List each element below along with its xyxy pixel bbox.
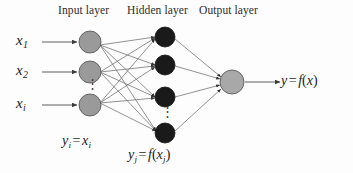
hidden-node-4[interactable]	[155, 123, 175, 143]
layer-title-hidden: Hidden layer	[127, 4, 188, 16]
input-label-x1: x1	[16, 32, 28, 50]
input-layer-nodes	[79, 31, 101, 116]
edge-in3-hid3	[100, 98, 155, 103]
edge-in1-hid4	[100, 45, 156, 131]
edge-hid3-out	[175, 85, 220, 97]
input-label-x2-base: x	[16, 62, 23, 78]
edge-hid2-out	[175, 66, 220, 79]
input-eq-operator: =	[71, 133, 82, 148]
hidden-eq-paren-close: )	[166, 147, 171, 162]
neural-network-figure: Input layer Hidden layer Output layer x1…	[0, 0, 353, 173]
output-node-1[interactable]	[220, 70, 244, 94]
layer-title-output: Output layer	[199, 4, 258, 16]
input-layer-ellipsis-icon: ⋮	[86, 82, 94, 85]
edge-hid1-out	[175, 39, 221, 77]
input-node-3[interactable]	[79, 94, 101, 116]
hidden-eq-arg-base: x	[157, 147, 163, 162]
input-label-xi-base: x	[16, 95, 23, 111]
input-arrows	[42, 42, 77, 105]
layer-title-input: Input layer	[58, 4, 109, 16]
edge-in3-hid4	[100, 103, 156, 131]
edges-input-to-hidden	[100, 37, 156, 131]
input-label-xi: xi	[16, 95, 26, 113]
hidden-layer-equation: yj=f(xj)	[128, 147, 170, 164]
input-label-x1-sub: 1	[23, 39, 28, 50]
hidden-node-2[interactable]	[155, 55, 175, 75]
output-eq-operator: =	[287, 73, 298, 88]
hidden-layer-ellipsis-icon: ⋮	[161, 110, 169, 113]
hidden-ellipsis-glyph: ⋮	[161, 110, 169, 113]
hidden-layer-nodes	[155, 27, 175, 143]
input-label-x2-sub: 2	[23, 69, 28, 80]
edge-in2-hid4	[100, 72, 156, 131]
edges-hidden-to-output	[175, 39, 221, 131]
input-eq-rhs-sub: i	[88, 140, 91, 150]
output-equation: y=f(x)	[281, 73, 318, 89]
input-node-1[interactable]	[79, 31, 101, 53]
hidden-eq-operator: =	[137, 147, 148, 162]
input-label-x1-base: x	[16, 32, 23, 48]
output-eq-paren-close: )	[313, 73, 318, 88]
edge-in3-hid2	[100, 67, 155, 103]
input-ellipsis-glyph: ⋮	[86, 82, 94, 85]
edge-in1-hid1	[100, 37, 155, 45]
input-label-xi-sub: i	[23, 102, 26, 113]
input-layer-equation: yi=xi	[62, 133, 91, 150]
input-label-x2: x2	[16, 62, 28, 80]
hidden-node-1[interactable]	[155, 27, 175, 47]
